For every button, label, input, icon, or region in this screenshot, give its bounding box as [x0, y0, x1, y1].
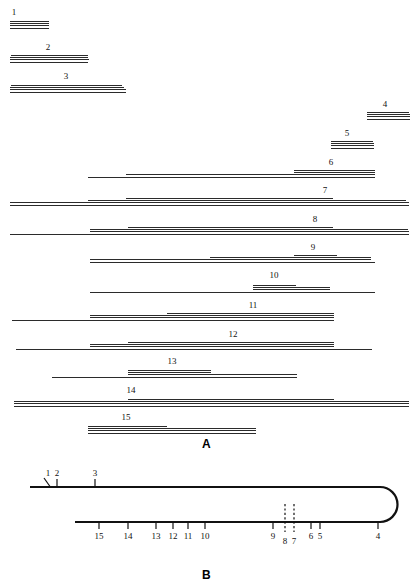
fragment-label-13: 13 [160, 357, 184, 366]
fragment-rule [10, 89, 126, 90]
fragment-label-6: 6 [319, 158, 343, 167]
site-label-3: 3 [93, 468, 98, 478]
panel-a-fragment-map: 123456789101112131415 [0, 0, 416, 450]
fragment-rule [294, 170, 375, 171]
fragment-rule [14, 406, 409, 407]
fragment-rule [367, 112, 409, 113]
fragment-rule [16, 349, 372, 350]
fragment-rule [126, 174, 375, 175]
fragment-rule [90, 317, 334, 318]
fragment-label-3: 3 [54, 72, 78, 81]
panel-b-letter: B [202, 568, 211, 582]
fragment-rule [10, 59, 89, 60]
fragment-rule [88, 200, 406, 201]
hairpin-duplex-svg: 123151413121110987654 [0, 455, 416, 565]
fragment-rule [10, 23, 49, 24]
scientific-figure: 123456789101112131415 A 1231514131211109… [0, 0, 416, 583]
fragment-rule [367, 116, 410, 117]
fragment-rule [167, 313, 334, 314]
fragment-rule [294, 172, 375, 173]
fragment-rule [10, 25, 49, 26]
panel-a-letter: A [202, 437, 211, 451]
fragment-rule [12, 320, 334, 321]
fragment-label-15: 15 [114, 413, 138, 422]
fragment-label-9: 9 [301, 243, 325, 252]
fragment-rule [128, 374, 297, 375]
fragment-rule [10, 202, 409, 203]
fragment-rule [10, 21, 49, 22]
fragment-rule [367, 119, 410, 120]
fragment-label-8: 8 [303, 215, 327, 224]
fragment-label-1: 1 [2, 8, 26, 17]
site-label-7: 7 [292, 536, 297, 546]
fragment-label-10: 10 [262, 271, 286, 280]
fragment-rule [88, 426, 167, 427]
fragment-rule [88, 428, 256, 429]
fragment-label-12: 12 [221, 330, 245, 339]
fragment-rule [90, 344, 334, 345]
fragment-rule [52, 377, 297, 378]
site-label-5: 5 [318, 531, 323, 541]
fragment-rule [210, 257, 371, 258]
fragment-label-7: 7 [313, 186, 337, 195]
fragment-rule [88, 433, 256, 434]
site-pointer-1 [44, 478, 50, 487]
fragment-rule [90, 231, 409, 232]
fragment-label-2: 2 [36, 43, 60, 52]
fragment-rule [331, 141, 373, 142]
site-label-15: 15 [95, 531, 105, 541]
site-label-4: 4 [376, 531, 381, 541]
fragment-label-5: 5 [335, 129, 359, 138]
site-label-11: 11 [184, 531, 193, 541]
site-label-9: 9 [271, 531, 276, 541]
fragment-rule [90, 292, 375, 293]
fragment-rule [128, 227, 333, 228]
site-label-2: 2 [55, 468, 60, 478]
hairpin-backbone [30, 487, 398, 522]
fragment-rule [331, 143, 374, 144]
site-label-13: 13 [152, 531, 162, 541]
fragment-rule [128, 399, 334, 400]
fragment-rule [88, 430, 256, 431]
fragment-label-11: 11 [241, 301, 265, 310]
fragment-rule [253, 285, 296, 286]
fragment-rule [128, 342, 334, 343]
site-label-10: 10 [201, 531, 211, 541]
fragment-rule [11, 85, 122, 86]
fragment-rule [253, 289, 330, 290]
fragment-rule [90, 229, 408, 230]
fragment-rule [367, 114, 410, 115]
fragment-rule [10, 62, 88, 63]
fragment-rule [10, 205, 409, 206]
site-label-14: 14 [124, 531, 134, 541]
fragment-rule [90, 346, 334, 347]
fragment-rule [90, 259, 371, 260]
site-label-8: 8 [283, 536, 288, 546]
site-label-6: 6 [309, 531, 314, 541]
fragment-rule [128, 372, 211, 373]
fragment-rule [88, 177, 375, 178]
fragment-rule [11, 55, 88, 56]
fragment-rule [253, 287, 330, 288]
fragment-rule [10, 28, 49, 29]
fragment-rule [14, 403, 409, 404]
fragment-rule [10, 92, 126, 93]
site-label-1: 1 [46, 468, 51, 478]
fragment-rule [14, 401, 409, 402]
fragment-rule [10, 57, 88, 58]
fragment-rule [126, 198, 333, 199]
fragment-label-14: 14 [119, 386, 143, 395]
fragment-rule [10, 234, 409, 235]
site-label-12: 12 [169, 531, 178, 541]
fragment-rule [90, 262, 375, 263]
fragment-rule [128, 370, 211, 371]
panel-b-hairpin-diagram: 123151413121110987654 [0, 455, 416, 583]
fragment-rule [294, 255, 337, 256]
fragment-rule [90, 315, 334, 316]
fragment-rule [10, 87, 124, 88]
fragment-rule [331, 148, 374, 149]
fragment-rule [331, 145, 374, 146]
fragment-label-4: 4 [373, 100, 397, 109]
